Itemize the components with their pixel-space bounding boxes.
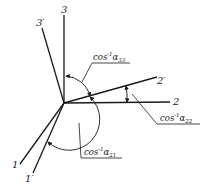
label-axis-3-prime: 3′ [36, 17, 45, 28]
arc-alpha21 [48, 97, 100, 150]
arc-alpha22 [126, 86, 127, 102]
diagram-canvas: 3 3′ 2 2′ 1 1′ cos-1α33 cos-1α22 cos-1α2… [0, 0, 211, 187]
axes-diagram: 3 3′ 2 2′ 1 1′ cos-1α33 cos-1α22 cos-1α2… [0, 0, 211, 187]
label-axis-2-prime: 2′ [156, 75, 166, 86]
axis-2-prime [64, 77, 157, 103]
label-axis-1-prime: 1′ [25, 173, 34, 184]
axis-3-prime [42, 28, 64, 103]
axis-1-prime [33, 103, 64, 173]
label-axis-3: 3 [61, 4, 67, 15]
annotation-alpha21: cos-1α21 [84, 146, 116, 158]
leader-alpha33 [82, 63, 130, 82]
arc-alpha33 [66, 76, 90, 96]
label-axis-1: 1 [12, 159, 18, 170]
annotation-alpha22: cos-1α22 [160, 112, 193, 124]
label-axis-2: 2 [172, 96, 179, 107]
annotation-alpha33: cos-1α33 [93, 51, 126, 63]
axis-2 [64, 102, 170, 103]
axis-1 [20, 103, 64, 164]
